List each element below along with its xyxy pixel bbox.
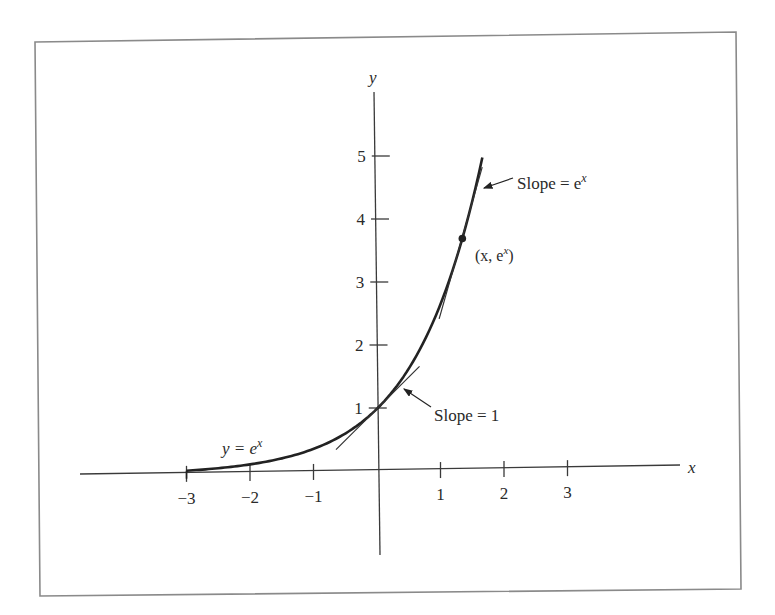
slope-ex-label: Slope = ex (517, 171, 587, 193)
y-ticks: 12345 (354, 147, 390, 418)
point-label: (x, ex) (475, 244, 514, 265)
slope1-arrow (404, 389, 431, 407)
exponential-figure: −3−2−1123 12345 y x y = ex (x, ex) S (0, 0, 775, 615)
y-axis-label: y (367, 68, 377, 87)
point-label-close: ) (508, 247, 513, 265)
slope-ex-base: Slope = e (517, 174, 581, 193)
x-tick-label: −2 (241, 488, 259, 507)
x-axis-label: x (687, 458, 696, 477)
y-axis (374, 92, 380, 555)
point-label-open: (x, e (475, 247, 503, 265)
curve-label: y = ex (220, 436, 263, 458)
x-tick-label: 2 (500, 484, 509, 503)
chart-svg: −3−2−1123 12345 y x y = ex (x, ex) S (0, 0, 775, 615)
curve-label-exp: x (256, 436, 263, 450)
y-tick-label: 2 (355, 336, 364, 355)
plot-area: −3−2−1123 12345 y x y = ex (x, ex) S (80, 68, 696, 555)
x-tick-label: −1 (304, 487, 322, 506)
y-tick-label: 1 (354, 399, 363, 418)
figure-frame (35, 32, 741, 596)
x-tick-label: 3 (563, 483, 572, 502)
y-tick-label: 3 (356, 273, 365, 292)
y-tick-label: 4 (357, 210, 366, 229)
slope-1-label: Slope = 1 (434, 406, 499, 425)
y-tick-label: 5 (357, 147, 366, 166)
tangent-line-at-x (439, 167, 482, 319)
point-marker (459, 235, 467, 243)
slope-ex-exp: x (580, 171, 587, 185)
x-tick-label: 1 (436, 485, 445, 504)
x-tick-label: −3 (177, 489, 195, 508)
slope-ex-arrow (484, 178, 513, 188)
curve-label-lhs: y = e (220, 439, 258, 458)
x-axis (80, 465, 680, 474)
